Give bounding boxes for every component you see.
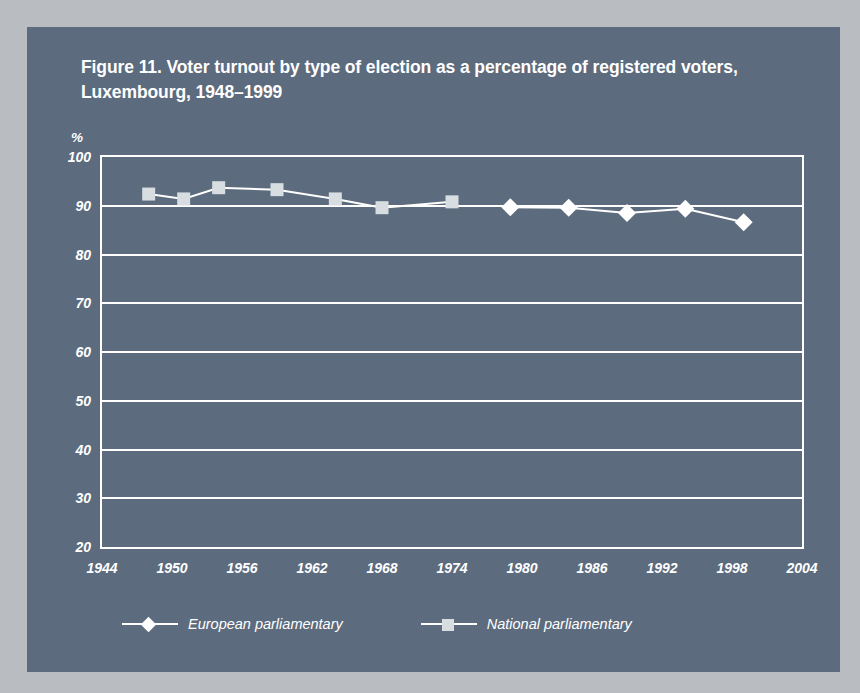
chart-legend: European parliamentary National parliame… xyxy=(122,615,632,633)
y-axis-tick-label: 90 xyxy=(75,198,91,214)
data-point-marker xyxy=(735,213,753,231)
y-axis-tick-label: 30 xyxy=(75,490,91,506)
x-axis-tick-label: 1974 xyxy=(436,560,467,576)
legend-item-national-parliamentary: National parliamentary xyxy=(421,615,632,633)
y-axis-tick-label: 50 xyxy=(75,393,91,409)
y-axis-tick-label: 80 xyxy=(75,247,91,263)
y-axis-tick-label: 40 xyxy=(75,442,91,458)
x-axis-tick-label: 1968 xyxy=(366,560,397,576)
series-layer xyxy=(102,157,802,547)
series-line-national-parliamentary xyxy=(149,188,452,208)
data-point-marker xyxy=(271,183,284,196)
data-point-marker xyxy=(501,198,519,216)
x-axis-tick-label: 1944 xyxy=(86,560,117,576)
plot-area: 2030405060708090100 19441950195619621968… xyxy=(100,155,804,549)
data-point-marker xyxy=(329,192,342,205)
legend-item-european-parliamentary: European parliamentary xyxy=(122,615,343,633)
y-axis-tick-label: 60 xyxy=(75,344,91,360)
data-point-marker xyxy=(177,192,190,205)
data-point-marker xyxy=(212,181,225,194)
legend-label-national-parliamentary: National parliamentary xyxy=(487,616,632,632)
x-axis-tick-label: 1962 xyxy=(296,560,327,576)
figure-root: Figure 11. Voter turnout by type of elec… xyxy=(0,0,860,693)
data-point-marker xyxy=(142,188,155,201)
data-point-marker xyxy=(676,200,694,218)
figure-panel: Figure 11. Voter turnout by type of elec… xyxy=(27,27,840,672)
x-axis-tick-label: 1950 xyxy=(156,560,187,576)
y-axis-tick-label: 70 xyxy=(75,295,91,311)
x-axis-tick-label: 1980 xyxy=(506,560,537,576)
x-axis-tick-label: 1998 xyxy=(716,560,747,576)
legend-label-european-parliamentary: European parliamentary xyxy=(188,616,343,632)
y-axis-tick-label: 100 xyxy=(68,149,91,165)
data-point-marker xyxy=(618,204,636,222)
square-marker-icon xyxy=(421,615,477,633)
diamond-marker-icon xyxy=(122,615,178,633)
data-point-marker xyxy=(446,195,459,208)
x-axis-tick-label: 1986 xyxy=(576,560,607,576)
x-axis-tick-label: 1992 xyxy=(646,560,677,576)
data-point-marker xyxy=(376,201,389,214)
data-point-marker xyxy=(560,199,578,217)
x-axis-tick-label: 2004 xyxy=(786,560,817,576)
x-axis-tick-label: 1956 xyxy=(226,560,257,576)
plot-wrapper: 2030405060708090100 19441950195619621968… xyxy=(27,27,840,672)
y-axis-tick-label: 20 xyxy=(75,539,91,555)
